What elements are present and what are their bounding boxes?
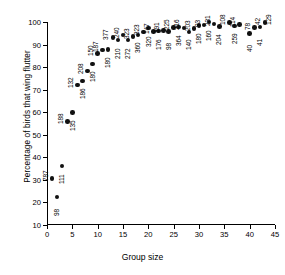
point-sample-size-label: 111 xyxy=(58,175,65,185)
y-tick-label: 90 xyxy=(33,40,41,49)
point-sample-size-label: 98 xyxy=(53,208,60,215)
data-point xyxy=(258,25,263,30)
x-tick xyxy=(72,225,73,229)
point-sample-size-label: 98 xyxy=(165,43,172,50)
y-tick xyxy=(43,202,47,203)
point-sample-size-label: 231 xyxy=(204,16,211,27)
x-axis-title: Group size xyxy=(0,252,285,262)
y-tick-label: 30 xyxy=(33,175,41,184)
point-sample-size-label: 204 xyxy=(215,34,222,45)
y-tick-label: 100 xyxy=(28,18,41,27)
point-sample-size-label: 377 xyxy=(102,29,109,40)
x-tick xyxy=(98,225,99,229)
x-tick-label: 40 xyxy=(245,230,253,239)
x-tick-label: 30 xyxy=(195,230,203,239)
point-sample-size-label: 108 xyxy=(219,15,226,26)
chart-container: Percentage of birds that wing flutter Gr… xyxy=(0,0,285,275)
point-sample-size-label: 188 xyxy=(57,113,64,124)
data-point xyxy=(252,25,257,30)
data-point xyxy=(247,31,252,36)
point-sample-size-label: 391 xyxy=(153,23,160,34)
point-sample-size-label: 186 xyxy=(79,89,86,100)
y-tick-label: 60 xyxy=(33,108,41,117)
point-sample-size-label: 787 xyxy=(42,171,49,182)
y-tick xyxy=(43,67,47,68)
point-sample-size-label: 93 xyxy=(194,20,201,27)
y-tick xyxy=(43,157,47,158)
x-tick-label: 25 xyxy=(169,230,177,239)
y-tick-label: 40 xyxy=(33,153,41,162)
point-sample-size-label: 129 xyxy=(265,14,272,25)
y-axis-title: Percentage of birds that wing flutter xyxy=(23,22,32,212)
y-tick-label: 20 xyxy=(33,198,41,207)
y-axis-line xyxy=(47,22,48,225)
data-point xyxy=(60,164,65,169)
x-axis-line xyxy=(47,224,275,225)
point-sample-size-label: 135 xyxy=(69,120,76,131)
point-sample-size-label: 240 xyxy=(113,27,120,38)
point-sample-size-label: 203 xyxy=(184,20,191,31)
y-tick-label: 10 xyxy=(33,221,41,230)
data-point xyxy=(90,62,95,67)
point-sample-size-label: 114 xyxy=(229,17,236,27)
point-sample-size-label: 147 xyxy=(143,23,150,34)
point-sample-size-label: 225 xyxy=(163,19,170,30)
y-tick xyxy=(43,22,47,23)
y-tick xyxy=(43,90,47,91)
data-point xyxy=(100,48,105,53)
x-tick-label: 5 xyxy=(70,230,74,239)
y-tick xyxy=(43,45,47,46)
y-tick-label: 50 xyxy=(33,130,41,139)
point-sample-size-label: 323 xyxy=(123,28,130,39)
data-point xyxy=(70,110,75,115)
point-sample-size-label: 360 xyxy=(134,43,141,54)
x-tick xyxy=(224,225,225,229)
x-tick-label: 45 xyxy=(271,230,279,239)
x-tick-label: 35 xyxy=(220,230,228,239)
y-tick-label: 70 xyxy=(33,85,41,94)
x-tick xyxy=(275,225,276,229)
point-sample-size-label: 180 xyxy=(89,72,96,83)
data-point xyxy=(106,47,111,52)
x-tick-label: 15 xyxy=(119,230,127,239)
data-point xyxy=(75,83,80,88)
y-tick xyxy=(43,135,47,136)
x-tick xyxy=(47,225,48,229)
point-sample-size-label: 208 xyxy=(77,63,84,74)
point-sample-size-label: 140 xyxy=(185,40,192,51)
x-tick xyxy=(123,225,124,229)
x-tick xyxy=(174,225,175,229)
x-tick xyxy=(199,225,200,229)
point-sample-size-label: 259 xyxy=(231,34,238,45)
point-sample-size-label: 78 xyxy=(244,23,251,30)
point-sample-size-label: 176 xyxy=(155,39,162,50)
point-sample-size-label: 320 xyxy=(145,36,152,47)
point-sample-size-label: 180 xyxy=(195,34,202,45)
point-sample-size-label: 160 xyxy=(205,30,212,41)
x-tick xyxy=(250,225,251,229)
data-point xyxy=(50,176,55,181)
data-point xyxy=(55,195,60,200)
plot-area: 102030405060708090100 051015202530354045… xyxy=(47,22,275,225)
point-sample-size-label: 364 xyxy=(175,35,182,46)
x-tick-label: 10 xyxy=(93,230,101,239)
point-sample-size-label: 40 xyxy=(246,45,253,52)
point-sample-size-label: 41 xyxy=(256,39,263,46)
point-sample-size-label: 180 xyxy=(104,58,111,69)
x-tick-label: 20 xyxy=(144,230,152,239)
x-tick xyxy=(148,225,149,229)
data-point xyxy=(80,79,85,84)
point-sample-size-label: 210 xyxy=(114,48,121,59)
point-sample-size-label: 323 xyxy=(133,24,140,35)
data-point xyxy=(212,22,217,27)
y-tick-label: 80 xyxy=(33,63,41,72)
point-sample-size-label: 216 xyxy=(173,20,180,31)
data-point xyxy=(237,22,242,27)
point-sample-size-label: 42 xyxy=(254,18,261,25)
x-tick-label: 0 xyxy=(45,230,49,239)
point-sample-size-label: 132 xyxy=(67,77,74,88)
point-sample-size-label: 187 xyxy=(92,42,99,53)
point-sample-size-label: 272 xyxy=(124,48,131,59)
data-point xyxy=(116,38,121,43)
y-tick xyxy=(43,112,47,113)
